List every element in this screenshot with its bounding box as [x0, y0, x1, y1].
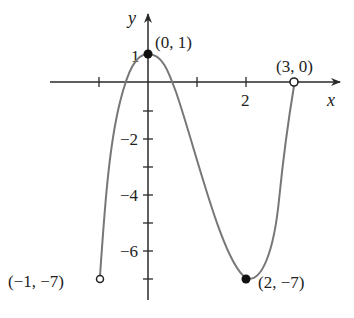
y-tick-label-neg4: −4: [120, 186, 139, 205]
point-label-neg1-neg7: (−1, −7): [8, 272, 64, 291]
x-tick-label-2: 2: [241, 91, 250, 110]
point-0-1-closed: [144, 50, 153, 59]
point-label-0-1: (0, 1): [155, 33, 192, 52]
point-2-neg7-closed: [242, 275, 251, 284]
point-label-2-neg7: (2, −7): [258, 273, 304, 292]
y-axis-label: y: [126, 8, 136, 28]
point-3-0-open: [290, 78, 298, 86]
x-axis-label: x: [326, 90, 335, 110]
y-tick-label-neg6: −6: [120, 242, 138, 261]
function-graph: y x 2 1 −2 −4 −6 (0, 1) (3, 0) (−1, −7) …: [0, 0, 354, 318]
point-label-3-0: (3, 0): [276, 57, 313, 76]
y-tick-label-neg2: −2: [120, 130, 138, 149]
point-neg1-neg7-open: [97, 276, 104, 283]
